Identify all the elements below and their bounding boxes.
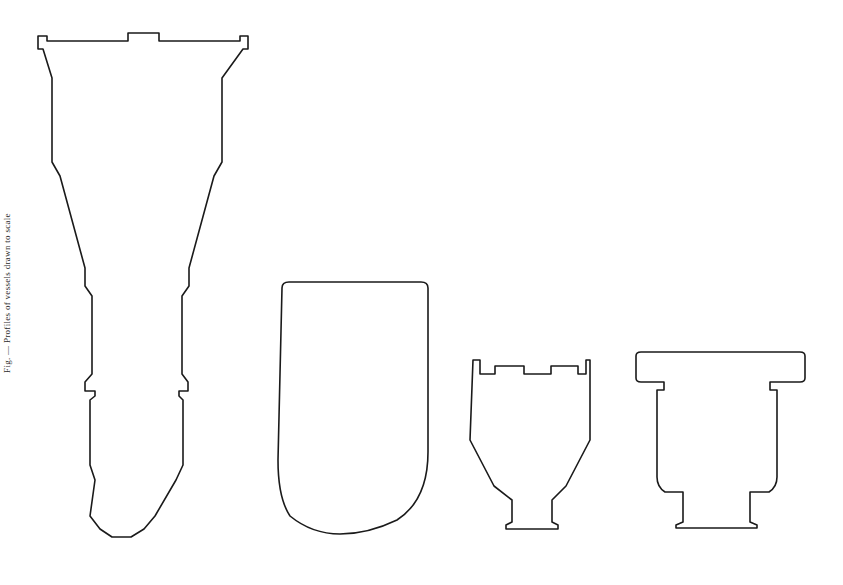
side-caption-text: Fig. — Profiles of vessels drawn to scal… — [1, 213, 14, 373]
side-caption: Fig. — Profiles of vessels drawn to scal… — [0, 0, 14, 585]
figure-plate: Fig. — Profiles of vessels drawn to scal… — [0, 0, 843, 585]
vessel-2-outline — [278, 282, 428, 534]
vessel-profile-drawing — [0, 0, 843, 585]
